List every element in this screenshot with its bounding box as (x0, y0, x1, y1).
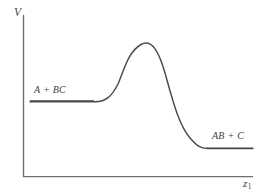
x-axis-label: z1 (243, 177, 252, 191)
product-state-label: AB + C (212, 130, 244, 141)
x-axis-label-base: z (243, 177, 247, 189)
reactant-state-label: A + BC (34, 84, 66, 95)
plot-canvas (0, 0, 269, 194)
potential-energy-figure: V z1 A + BC AB + C (0, 0, 269, 194)
y-axis-label: V (14, 6, 21, 18)
x-axis-label-subscript: 1 (248, 182, 252, 191)
